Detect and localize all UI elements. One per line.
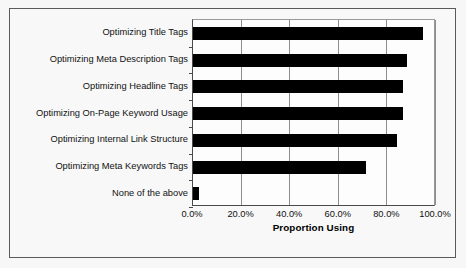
bar-band bbox=[193, 180, 434, 207]
category-label: Optimizing On-Page Keyword Usage bbox=[8, 108, 188, 118]
x-axis-title: Proportion Using bbox=[192, 222, 435, 233]
category-label: Optimizing Meta Description Tags bbox=[8, 54, 188, 64]
bar-band bbox=[193, 73, 434, 100]
gridline bbox=[435, 20, 436, 205]
bar bbox=[193, 107, 403, 120]
bar bbox=[193, 27, 423, 40]
bar bbox=[193, 54, 407, 67]
category-label: Optimizing Internal Link Structure bbox=[8, 134, 188, 144]
plot-area bbox=[192, 19, 435, 206]
bar bbox=[193, 161, 366, 174]
category-tick-mark bbox=[189, 207, 193, 208]
bar-band bbox=[193, 154, 434, 181]
category-label: Optimizing Meta Keywords Tags bbox=[8, 161, 188, 171]
bar-band bbox=[193, 20, 434, 47]
x-tick-label: 80.0% bbox=[373, 209, 399, 219]
category-axis-labels: Optimizing Title TagsOptimizing Meta Des… bbox=[10, 19, 188, 206]
category-label: Optimizing Title Tags bbox=[8, 27, 188, 37]
bar bbox=[193, 134, 397, 147]
bar bbox=[193, 80, 403, 93]
category-label: Optimizing Headline Tags bbox=[8, 81, 188, 91]
x-tick-label: 100.0% bbox=[419, 209, 451, 219]
category-label: None of the above bbox=[8, 188, 188, 198]
x-tick-label: 20.0% bbox=[227, 209, 253, 219]
bar-band bbox=[193, 127, 434, 154]
bar bbox=[193, 187, 199, 200]
bar-band bbox=[193, 47, 434, 74]
x-axis-tick-labels: 0.0%20.0%40.0%60.0%80.0%100.0% bbox=[192, 209, 435, 223]
x-tick-label: 60.0% bbox=[325, 209, 351, 219]
bar-band bbox=[193, 100, 434, 127]
x-tick-label: 0.0% bbox=[181, 209, 202, 219]
x-tick-label: 40.0% bbox=[276, 209, 302, 219]
chart-figure: Optimizing Title TagsOptimizing Meta Des… bbox=[9, 8, 456, 258]
